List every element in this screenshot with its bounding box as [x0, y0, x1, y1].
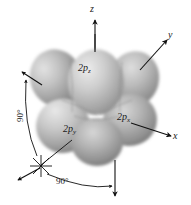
axis-label-x: x — [173, 131, 177, 141]
orbital-figure: z y x 2pz 2py 2px 90° 90° — [0, 0, 191, 205]
angle-label-left: 90° — [16, 109, 25, 122]
orbital-diagram-canvas — [0, 0, 191, 205]
orbital-label-2pz: 2pz — [78, 63, 91, 73]
orbital-label-2py: 2py — [63, 124, 76, 134]
orbital-lobe-cloud — [22, 42, 165, 166]
orbital-label-2px: 2px — [117, 112, 130, 122]
axis-label-y: y — [168, 30, 172, 40]
axis-label-z: z — [90, 4, 94, 14]
angle-label-bottom: 90° — [56, 177, 69, 186]
axis-origin-star-icon — [30, 155, 52, 177]
lobe-minus-z — [71, 118, 123, 166]
